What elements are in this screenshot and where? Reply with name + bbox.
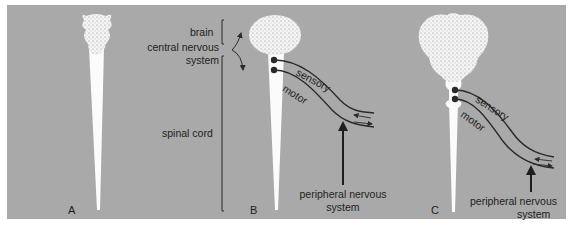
panel-label-b: B	[250, 204, 257, 216]
pns-label-b-line2: system	[283, 201, 403, 213]
spinal-cord-bracket	[222, 56, 224, 211]
brain-bracket	[222, 20, 224, 44]
panel-a-neural-tube	[82, 14, 111, 210]
pns-label-b-line1: peripheral nervous	[283, 188, 403, 200]
cns-label-line2: system	[140, 54, 219, 66]
pns-label-c-line1: peripheral nervous	[470, 195, 557, 207]
brain-label: brain	[190, 26, 213, 38]
panel-b-nervous-system	[222, 15, 374, 211]
brain-b	[249, 15, 301, 55]
cns-label-line1: central nervous	[140, 41, 219, 53]
arrow-to-spinal-cord	[232, 50, 243, 70]
panel-label-c: C	[431, 204, 439, 216]
brain-c	[419, 13, 489, 82]
arrow-to-brain	[232, 33, 241, 50]
spinal-cord-label: spinal cord	[162, 127, 213, 139]
pns-label-c-line2: system	[517, 208, 550, 220]
panel-label-a: A	[68, 204, 75, 216]
primitive-brain-a	[82, 14, 111, 55]
panel-c-nervous-system	[419, 13, 554, 212]
